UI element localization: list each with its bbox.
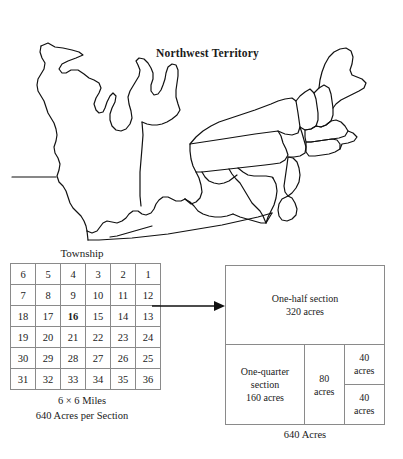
section-cell-31[interactable]: 31 (11, 369, 36, 390)
kentucky-northern-border (110, 226, 152, 237)
section-cell-15[interactable]: 15 (86, 306, 111, 327)
new-york-east-border (288, 127, 306, 157)
section-cell-14[interactable]: 14 (111, 306, 136, 327)
township-acres-caption: 640 Acres per Section (10, 409, 154, 423)
forty-acre-top-value: 40 (354, 351, 375, 364)
section-cell-35[interactable]: 35 (111, 369, 136, 390)
section-cell-1[interactable]: 1 (136, 264, 161, 285)
section-cell-32[interactable]: 32 (36, 369, 61, 390)
half-section-acres: 320 acres (272, 305, 338, 318)
eighty-acre-value: 80 (314, 372, 335, 385)
forty-acre-cell-top[interactable]: 40 acres (345, 345, 385, 385)
section-cell-36[interactable]: 36 (136, 369, 161, 390)
section-cell-22[interactable]: 22 (86, 327, 111, 348)
state-divider-ohio-west (140, 122, 143, 206)
township-label: Township (10, 247, 154, 259)
section-lower-row: One-quarter section 160 acres 80 acres 4… (226, 345, 384, 424)
township-figure: Township 6 5 4 3 2 1 7 8 9 10 11 12 18 1… (10, 247, 154, 423)
eighty-acre-cell[interactable]: 80 acres (305, 345, 345, 424)
section-cell-34[interactable]: 34 (86, 369, 111, 390)
half-section-cell[interactable]: One-half section 320 acres (226, 266, 384, 345)
section-cell-5[interactable]: 5 (36, 264, 61, 285)
northwest-territory-map (0, 0, 403, 250)
map-title: Northwest Territory (0, 47, 403, 59)
new-york-outline (190, 98, 300, 144)
chesapeake-bay (266, 178, 277, 223)
section-caption: 640 Acres (225, 429, 385, 440)
section-cell-9[interactable]: 9 (61, 285, 86, 306)
section-cell-6[interactable]: 6 (11, 264, 36, 285)
section-subdivision-figure: One-half section 320 acres One-quarter s… (225, 265, 385, 440)
section-cell-25[interactable]: 25 (136, 348, 161, 369)
forty-acre-bottom-value: 40 (354, 391, 375, 404)
southern-boundary-tick (87, 231, 88, 240)
section-cell-18[interactable]: 18 (11, 306, 36, 327)
section-cell-8[interactable]: 8 (36, 285, 61, 306)
table-row: 18 17 16 15 14 13 (11, 306, 161, 327)
section-cell-16[interactable]: 16 (61, 306, 86, 327)
forty-acre-stack: 40 acres 40 acres (345, 345, 385, 424)
arrow-right-icon (152, 296, 226, 316)
section-cell-30[interactable]: 30 (11, 348, 36, 369)
coast-cape-cod (340, 131, 357, 149)
section-cell-4[interactable]: 4 (61, 264, 86, 285)
section-cell-2[interactable]: 2 (111, 264, 136, 285)
section-cell-21[interactable]: 21 (61, 327, 86, 348)
township-section-grid: 6 5 4 3 2 1 7 8 9 10 11 12 18 17 16 15 1… (10, 263, 161, 390)
forty-acre-bottom-unit: acres (354, 404, 375, 417)
section-cell-11[interactable]: 11 (111, 285, 136, 306)
quarter-section-acres: 160 acres (226, 391, 304, 404)
interior-divider-a (185, 172, 202, 204)
pennsylvania-outline (190, 131, 288, 172)
section-cell-7[interactable]: 7 (11, 285, 36, 306)
section-cell-23[interactable]: 23 (111, 327, 136, 348)
section-cell-10[interactable]: 10 (86, 285, 111, 306)
section-cell-24[interactable]: 24 (136, 327, 161, 348)
new-jersey-outline (284, 157, 300, 196)
eighty-acre-unit: acres (314, 385, 335, 398)
section-cell-17[interactable]: 17 (36, 306, 61, 327)
table-row: 30 29 28 27 26 25 (11, 348, 161, 369)
township-size-caption: 6 × 6 Miles (10, 394, 154, 408)
section-cell-27[interactable]: 27 (86, 348, 111, 369)
table-row: 19 20 21 22 23 24 (11, 327, 161, 348)
half-section-label: One-half section (272, 292, 338, 305)
map-figure: Northwest Territory (0, 0, 403, 250)
ohio-river-boundary (87, 197, 185, 233)
forty-acre-top-unit: acres (354, 364, 375, 377)
table-row: 6 5 4 3 2 1 (11, 264, 161, 285)
section-cell-19[interactable]: 19 (11, 327, 36, 348)
forty-acre-cell-bottom[interactable]: 40 acres (345, 385, 385, 425)
table-row: 7 8 9 10 11 12 (11, 285, 161, 306)
section-cell-3[interactable]: 3 (86, 264, 111, 285)
section-cell-28[interactable]: 28 (61, 348, 86, 369)
table-row: 31 32 33 34 35 36 (11, 369, 161, 390)
quarter-section-label: One-quarter section (226, 365, 304, 391)
section-cell-29[interactable]: 29 (36, 348, 61, 369)
massachusetts-outline (305, 120, 348, 142)
section-cell-26[interactable]: 26 (111, 348, 136, 369)
maryland-virginia-inner (238, 168, 273, 178)
western-boundary (37, 46, 87, 231)
section-box: One-half section 320 acres One-quarter s… (225, 265, 385, 425)
virginia-west-border (185, 199, 233, 217)
quarter-section-cell[interactable]: One-quarter section 160 acres (226, 345, 305, 424)
connecticut-rhodeisland-outline (306, 139, 340, 156)
section-cell-20[interactable]: 20 (36, 327, 61, 348)
delaware-maryland-coast (278, 196, 297, 221)
section-cell-33[interactable]: 33 (61, 369, 86, 390)
